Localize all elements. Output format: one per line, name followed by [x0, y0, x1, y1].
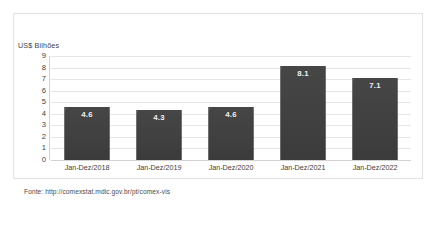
- source-note: Fonte: http://comexstat.mdic.gov.br/pt/c…: [24, 188, 170, 195]
- y-tick-label: 3: [24, 120, 46, 129]
- bar-value-label: 4.6: [209, 110, 254, 119]
- y-tick-label: 0: [24, 155, 46, 164]
- y-tick-label: 9: [24, 51, 46, 60]
- bar-slot: 7.1: [339, 56, 411, 160]
- bars-layer: 4.64.34.68.17.1: [51, 56, 411, 160]
- bar-value-label: 4.3: [137, 113, 182, 122]
- category-label: Jan-Dez/2018: [51, 163, 123, 172]
- bar-slot: 8.1: [267, 56, 339, 160]
- category-label: Jan-Dez/2021: [267, 163, 339, 172]
- bar-slot: 4.6: [51, 56, 123, 160]
- y-tick-label: 6: [24, 86, 46, 95]
- category-label: Jan-Dez/2019: [123, 163, 195, 172]
- bar[interactable]: 8.1: [281, 66, 326, 160]
- bar[interactable]: 4.6: [209, 107, 254, 160]
- bar[interactable]: 7.1: [353, 78, 398, 160]
- category-label: Jan-Dez/2020: [195, 163, 267, 172]
- gridline: [51, 160, 411, 161]
- bar-slot: 4.6: [195, 56, 267, 160]
- y-tick-label: 5: [24, 97, 46, 106]
- bar-value-label: 8.1: [281, 69, 326, 78]
- y-tick-label: 1: [24, 143, 46, 152]
- y-axis-line: [49, 56, 50, 160]
- bar-value-label: 7.1: [353, 81, 398, 90]
- y-tick-label: 2: [24, 132, 46, 141]
- y-tick-label: 7: [24, 74, 46, 83]
- bar-slot: 4.3: [123, 56, 195, 160]
- y-axis-unit-label: US$ Bilhões: [18, 41, 59, 50]
- category-label: Jan-Dez/2022: [339, 163, 411, 172]
- category-axis-labels: Jan-Dez/2018Jan-Dez/2019Jan-Dez/2020Jan-…: [51, 163, 411, 175]
- bar[interactable]: 4.3: [137, 110, 182, 160]
- plot-area: 9876543210 4.64.34.68.17.1: [38, 56, 411, 160]
- y-tick-label: 8: [24, 63, 46, 72]
- bar[interactable]: 4.6: [65, 107, 110, 160]
- y-tick-label: 4: [24, 109, 46, 118]
- bar-value-label: 4.6: [65, 110, 110, 119]
